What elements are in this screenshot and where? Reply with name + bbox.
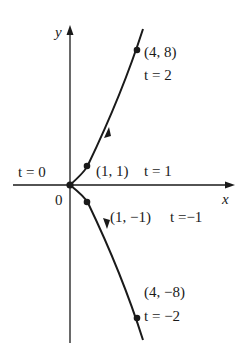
param-label-4-8: t = 2 [144, 67, 172, 83]
x-axis-arrow-icon [225, 182, 235, 189]
point-origin [66, 181, 73, 188]
param-label-4-neg8: t = −2 [144, 308, 180, 324]
parametric-curve-figure: y x 0 t = 0 (1, 1) t = 1 (4, 8) t = 2 (1… [0, 0, 242, 343]
axes [13, 25, 235, 343]
point-4-neg8 [134, 315, 141, 322]
coord-label-4-8: (4, 8) [144, 44, 177, 61]
curve-upper-branch [70, 29, 143, 185]
param-label-origin: t = 0 [18, 164, 46, 180]
point-1-neg1 [84, 199, 91, 206]
coord-label-4-neg8: (4, −8) [144, 284, 185, 301]
x-axis-label: x [221, 191, 229, 207]
origin-label: 0 [55, 192, 63, 208]
coord-label-1-1: (1, 1) [96, 163, 129, 180]
param-label-1-1: t = 1 [144, 163, 172, 179]
y-axis-label: y [53, 24, 62, 40]
point-1-1 [84, 163, 91, 170]
point-4-8 [134, 47, 141, 54]
param-label-1-neg1: t =−1 [170, 209, 202, 225]
coord-label-1-neg1: (1, −1) [110, 209, 151, 226]
y-axis-arrow-icon [67, 25, 74, 35]
direction-arrow-lower-icon [103, 218, 110, 229]
